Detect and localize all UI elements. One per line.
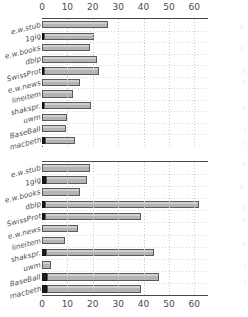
- bar-dblp: [42, 201, 199, 208]
- x-tick-label: 60: [189, 299, 200, 310]
- bar-baseball: [42, 273, 159, 280]
- bar-segment-light: [47, 273, 159, 280]
- bar-e-w-books: [42, 44, 90, 51]
- gridline-horizontal: [42, 174, 207, 175]
- gridline-vertical: [67, 19, 68, 146]
- bar-shakspr-: [42, 102, 91, 109]
- x-tick-label: 0: [39, 299, 45, 310]
- gridline-horizontal: [42, 247, 207, 248]
- bar-segment-light: [42, 237, 65, 244]
- gridline-horizontal: [42, 65, 207, 66]
- x-tick-label: 0: [39, 2, 45, 13]
- bar-e-w-stub: [42, 21, 108, 28]
- chart-bottom: e.w.stub1gige.w.booksdblpSwissProte.w.ne…: [0, 152, 248, 317]
- gridline-vertical: [144, 162, 145, 295]
- bar-e-w-news: [42, 225, 78, 232]
- bar-e-w-books: [42, 188, 80, 195]
- bar-uwm: [42, 114, 67, 121]
- gridline-horizontal: [42, 283, 207, 284]
- bar-swissprot: [42, 213, 141, 220]
- gridline-horizontal: [42, 198, 207, 199]
- bar-segment-light: [45, 137, 75, 144]
- chart-top: 0102030405060 e.w.stub1gige.w.booksdblpS…: [0, 0, 248, 152]
- gridline-vertical: [93, 162, 94, 295]
- bar-baseball: [42, 125, 66, 132]
- gridline-horizontal: [42, 88, 207, 89]
- x-tick-label: 50: [163, 2, 174, 13]
- x-axis-line-bottom: [42, 295, 208, 296]
- bar-segment-light: [47, 285, 141, 292]
- bar-segment-light: [42, 164, 90, 171]
- x-tick-label: 50: [163, 299, 174, 310]
- category-labels-bottom: e.w.stub1gige.w.booksdblpSwissProte.w.ne…: [0, 162, 42, 295]
- bar-macbeth: [42, 137, 75, 144]
- gridline-horizontal: [42, 222, 207, 223]
- bar-lineitem: [42, 237, 65, 244]
- gridline-vertical: [194, 162, 195, 295]
- gridline-horizontal: [42, 259, 207, 260]
- plot-area-top: [42, 19, 207, 146]
- x-tick-label: 10: [62, 2, 73, 13]
- bar-segment-light: [42, 225, 78, 232]
- bar-segment-light: [44, 33, 94, 40]
- x-tick-label: 20: [87, 2, 98, 13]
- bar-segment-light: [42, 21, 108, 28]
- x-axis-tick-labels-bottom: 0102030405060: [0, 299, 248, 311]
- bar-segment-light: [46, 249, 154, 256]
- bar-uwm: [42, 261, 51, 268]
- gridline-vertical: [194, 19, 195, 146]
- gridline-horizontal: [42, 271, 207, 272]
- x-tick-label: 30: [112, 299, 123, 310]
- gridline-vertical: [93, 19, 94, 146]
- x-tick-label: 60: [189, 2, 200, 13]
- bar-segment-light: [42, 79, 80, 86]
- bar-swissprot: [42, 67, 99, 74]
- bar-segment-light: [45, 201, 199, 208]
- bar-segment-light: [42, 114, 67, 121]
- gridline-vertical: [118, 19, 119, 146]
- bar-segment-light: [42, 56, 97, 63]
- x-tick-label: 30: [112, 2, 123, 13]
- x-tick-label: 10: [62, 299, 73, 310]
- bar-macbeth: [42, 285, 141, 292]
- gridline-horizontal: [42, 100, 207, 101]
- gridline-vertical: [118, 162, 119, 295]
- bar-segment-light: [44, 67, 99, 74]
- bar-1gig: [42, 176, 87, 183]
- gridline-horizontal: [42, 210, 207, 211]
- gridline-horizontal: [42, 186, 207, 187]
- gridline-horizontal: [42, 31, 207, 32]
- bar-segment-light: [42, 44, 90, 51]
- x-axis-tick-labels-top: 0102030405060: [0, 2, 248, 14]
- gridline-horizontal: [42, 134, 207, 135]
- bar-segment-light: [46, 176, 88, 183]
- gridline-horizontal: [42, 123, 207, 124]
- gridline-horizontal: [42, 111, 207, 112]
- x-tick-label: 40: [138, 2, 149, 13]
- bar-segment-light: [42, 261, 51, 268]
- category-labels-top: e.w.stub1gige.w.booksdblpSwissProte.w.ne…: [0, 19, 42, 146]
- x-tick-label: 40: [138, 299, 149, 310]
- bar-shakspr-: [42, 249, 154, 256]
- gridline-horizontal: [42, 42, 207, 43]
- bar-segment-light: [42, 188, 80, 195]
- gridline-vertical: [144, 19, 145, 146]
- gridline-horizontal: [42, 54, 207, 55]
- gridline-horizontal: [42, 77, 207, 78]
- bar-segment-light: [42, 125, 66, 132]
- figure-two-bar-charts: 0102030405060 e.w.stub1gige.w.booksdblpS…: [0, 0, 248, 317]
- bar-dblp: [42, 56, 97, 63]
- bar-e-w-news: [42, 79, 80, 86]
- bar-e-w-stub: [42, 164, 90, 171]
- gridline-vertical: [169, 19, 170, 146]
- gridline-horizontal: [42, 235, 207, 236]
- plot-area-bottom: [42, 162, 207, 295]
- gridline-vertical: [67, 162, 68, 295]
- x-tick-label: 20: [87, 299, 98, 310]
- gridline-vertical: [169, 162, 170, 295]
